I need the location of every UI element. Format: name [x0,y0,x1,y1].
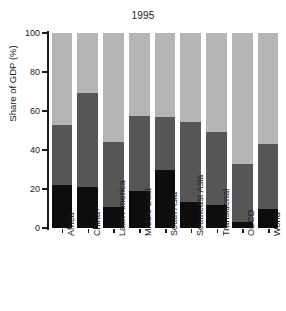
y-tick-label: 20 [0,184,40,194]
bar-segment-industry[interactable] [52,125,73,185]
bar-segment-industry[interactable] [258,144,279,208]
x-tick-mark [62,229,64,233]
bar-segment-services[interactable] [258,33,279,144]
x-axis-label-south-asia: South Asia [169,192,179,236]
bar-segment-services[interactable] [180,33,201,122]
x-tick-mark [139,229,141,233]
bar-segment-services[interactable] [232,33,253,164]
x-tick-mark [217,229,219,233]
y-tick-label: 40 [0,145,40,155]
y-tick-label: 100 [0,28,40,38]
y-tick-mark [42,71,47,73]
y-tick-mark [42,149,47,151]
bar-segment-services[interactable] [77,33,98,93]
bar-segment-services[interactable] [129,33,150,116]
x-axis-label-africa: Africa [66,212,76,236]
bar-stack[interactable] [52,33,73,228]
bar-segment-services[interactable] [52,33,73,125]
y-tick-mark [42,188,47,190]
bar-segment-services[interactable] [103,33,124,142]
x-axis-label-china-: China+ [92,207,102,236]
plot-area [49,33,281,228]
x-tick-mark [191,229,193,233]
y-tick-mark [42,32,47,34]
y-tick-mark [42,227,47,229]
x-tick-mark [268,229,270,233]
x-axis-label-latin-america: Latin America [117,180,127,236]
x-axis-label-southeast-asia: Southeast Asia [195,175,205,236]
y-tick-label: 60 [0,106,40,116]
y-tick-mark [42,110,47,112]
bar-segment-services[interactable] [206,33,227,132]
bar-stack[interactable] [77,33,98,228]
bar-segment-industry[interactable] [77,93,98,187]
bar-segment-services[interactable] [155,33,176,117]
y-tick-label: 0 [0,223,40,233]
x-tick-mark [88,229,90,233]
x-tick-mark [242,229,244,233]
x-axis-label-transitional: Transitional [221,189,231,236]
chart-title: 1995 [0,10,286,21]
y-axis-ticks: 020406080100 [0,0,40,311]
x-axis-label-world: World [272,212,282,236]
bar-segment-industry[interactable] [155,117,176,170]
x-tick-mark [165,229,167,233]
x-axis-label-oecd: OECD [246,210,256,236]
y-tick-label: 80 [0,67,40,77]
bar-segment-industry[interactable] [129,116,150,191]
chart-figure: 1995 Share of GDP (%) 020406080100 Afric… [0,0,286,311]
bar-stack[interactable] [258,33,279,228]
x-axis-label-middle-east: Middle East [143,188,153,236]
bar-stack[interactable] [232,33,253,228]
x-tick-mark [113,229,115,233]
